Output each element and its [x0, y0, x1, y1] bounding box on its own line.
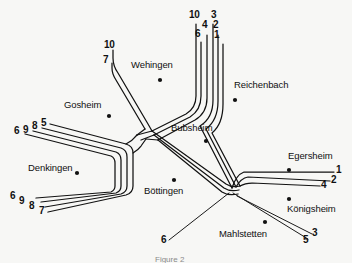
city-dot-reichenbach [233, 98, 237, 102]
line-label-6-north: 6 [195, 28, 200, 39]
city-label-boettingen: Böttingen [144, 185, 183, 196]
east-trunk-lines [232, 172, 334, 188]
city-label-mahlstetten: Mahlstetten [219, 228, 267, 239]
figure-container: Wehingen Reichenbach Gosheim Bubsheim Eg… [0, 0, 352, 263]
line-label-9-west-lower: 9 [19, 195, 24, 206]
city-dots-group [75, 78, 291, 224]
city-dot-egersheim [287, 168, 291, 172]
line-label-5-west-upper: 5 [41, 117, 46, 128]
line-label-8-west-lower: 8 [29, 200, 34, 211]
line-label-7-west-lower: 7 [39, 205, 44, 216]
line-label-6-west-upper: 6 [14, 125, 19, 136]
city-dot-boettingen [172, 178, 176, 182]
line-label-4-north: 4 [202, 19, 207, 30]
city-label-koenigsheim: Königsheim [287, 203, 336, 214]
city-dot-denkingen [75, 171, 79, 175]
west-to-hub-connector [126, 135, 146, 153]
city-label-denkingen: Denkingen [28, 162, 73, 173]
line-label-7-northwest: 7 [103, 54, 108, 65]
city-dot-bubsheim [204, 139, 208, 143]
line-label-10-north: 10 [189, 9, 200, 20]
city-label-gosheim: Gosheim [64, 99, 101, 110]
city-label-reichenbach: Reichenbach [234, 79, 288, 90]
line-label-1-north: 1 [214, 29, 219, 40]
line-label-10-northwest: 10 [104, 39, 115, 50]
city-dot-koenigsheim [287, 197, 291, 201]
line-label-9-west-upper: 9 [23, 124, 28, 135]
north-trunk-lines [152, 24, 240, 188]
city-dot-wehingen [158, 78, 162, 82]
figure-caption: Figure 2 [155, 255, 184, 263]
line-label-8-west-upper: 8 [32, 120, 37, 131]
city-label-wehingen: Wehingen [131, 59, 173, 70]
line-label-6-west-lower: 6 [10, 190, 15, 201]
city-dot-mahlstetten [263, 220, 267, 224]
line-label-3-southeast: 3 [312, 227, 317, 238]
line-label-2-east: 2 [331, 174, 336, 185]
line-label-1-east: 1 [336, 164, 341, 175]
line-label-6-southwest: 6 [161, 234, 166, 245]
line-label-4-east: 4 [321, 179, 326, 190]
city-dot-gosheim [107, 114, 111, 118]
line-label-5-southeast: 5 [303, 234, 308, 245]
city-label-egersheim: Egersheim [288, 150, 333, 161]
city-label-bubsheim: Bubsheim [171, 122, 212, 133]
